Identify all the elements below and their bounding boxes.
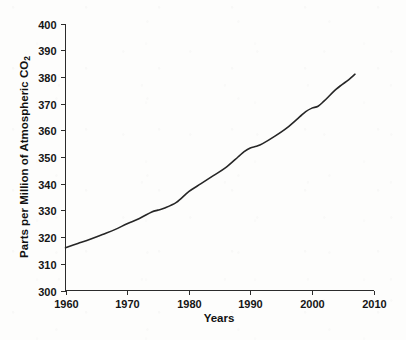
y-tick-label: 310 — [38, 259, 56, 271]
y-tick-label: 370 — [38, 99, 56, 111]
x-tick-label: 2000 — [300, 298, 324, 310]
x-tick-label: 1980 — [177, 298, 201, 310]
y-axis-title: Parts per Million of Atmospheric CO2 — [18, 56, 32, 258]
y-axis-tick-labels: 300310320330340350360370380390400 — [38, 19, 56, 298]
y-tick-label: 400 — [38, 19, 56, 31]
x-tick-label: 2010 — [362, 298, 386, 310]
y-tick-label: 390 — [38, 45, 56, 57]
x-axis-ticks — [67, 291, 375, 296]
x-tick-label: 1970 — [115, 298, 139, 310]
x-tick-label: 1990 — [238, 298, 262, 310]
x-tick-label: 1960 — [54, 298, 78, 310]
y-axis-ticks — [61, 25, 66, 292]
y-tick-label: 380 — [38, 72, 56, 84]
y-tick-label: 320 — [38, 232, 56, 244]
y-tick-label: 350 — [38, 152, 56, 164]
y-tick-label: 330 — [38, 205, 56, 217]
y-tick-label: 300 — [38, 286, 56, 298]
co2-line-chart: 300310320330340350360370380390400 196019… — [0, 0, 406, 340]
chart-plot-area: 300310320330340350360370380390400 196019… — [0, 0, 406, 340]
x-axis-title: Years — [204, 312, 235, 324]
x-axis-tick-labels: 196019701980199020002010 — [54, 298, 386, 310]
y-tick-label: 340 — [38, 179, 56, 191]
co2-data-line — [66, 74, 356, 248]
y-tick-label: 360 — [38, 125, 56, 137]
